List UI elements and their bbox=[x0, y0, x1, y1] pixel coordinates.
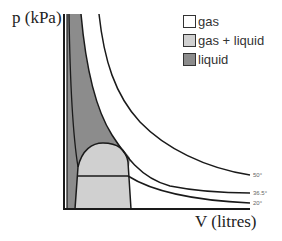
legend-swatch-gas bbox=[183, 15, 196, 28]
legend-item-gas: gas bbox=[183, 12, 264, 31]
legend-swatch-liquid bbox=[183, 53, 196, 66]
isotherm-label-36-5: 36.5° bbox=[253, 190, 267, 196]
legend-item-gas-liquid: gas + liquid bbox=[183, 31, 264, 50]
x-axis-label: V (litres) bbox=[195, 212, 257, 232]
legend-label: gas bbox=[198, 14, 219, 29]
legend: gas gas + liquid liquid bbox=[183, 12, 264, 69]
legend-item-liquid: liquid bbox=[183, 50, 264, 69]
legend-label: gas + liquid bbox=[198, 33, 264, 48]
pv-diagram: p (kPa) V (litres) 50° 36.5° 20° gas gas… bbox=[0, 0, 282, 241]
legend-swatch-gas-liquid bbox=[183, 34, 196, 47]
y-axis-label: p (kPa) bbox=[12, 8, 62, 28]
legend-label: liquid bbox=[198, 52, 228, 67]
isotherm-label-50: 50° bbox=[253, 172, 262, 178]
isotherm-label-20: 20° bbox=[253, 200, 262, 206]
